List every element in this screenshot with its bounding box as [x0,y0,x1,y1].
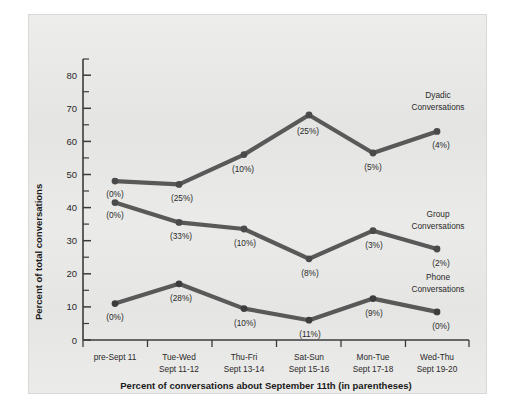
annotation-group-0: (0%) [106,210,124,220]
series-group-markers [112,199,441,262]
x-cat-4-line2: Sept 17-18 [353,364,394,374]
y-tick-label-30: 30 [66,235,77,246]
annotation-phone-5: (0%) [432,321,450,331]
annotation-phone-2: (10%) [234,318,256,328]
series-phone: (0%) (28%) (10%) (11%) (9%) (0%) Phone C… [106,272,464,339]
y-tick-label-60: 60 [66,136,77,147]
series-group-line [115,203,437,259]
line-chart: Percent of total conversations 0 10 20 3… [29,15,486,393]
x-cat-4-line1: Mon-Tue [357,352,390,362]
series-label-dyadic-line2: Conversations [411,102,464,112]
series-label-group-line1: Group [426,209,449,219]
annotation-group-2: (10%) [234,238,256,248]
y-tick-label-20: 20 [66,268,77,279]
series-label-phone-line1: Phone [426,272,450,282]
y-tick-label-50: 50 [66,169,77,180]
x-axis-category-labels: pre-Sept 11 Tue-Wed Sept 11-12 Thu-Fri S… [94,352,458,374]
y-tick-label-80: 80 [66,70,77,81]
y-axis-title: Percent of total conversations [33,184,44,320]
series-dyadic-markers [112,112,441,188]
y-tick-label-0: 0 [72,335,77,346]
x-cat-5-line1: Wed-Thu [420,352,454,362]
annotation-group-5: (2%) [432,258,450,268]
annotation-group-4: (3%) [365,240,383,250]
annotation-group-3: (8%) [301,268,319,278]
x-cat-2-line2: Sept 13-14 [224,364,265,374]
x-cat-2-line1: Thu-Fri [231,352,258,362]
series-label-phone-line2: Conversations [411,284,464,294]
x-cat-1-line2: Sept 11-12 [159,364,199,374]
annotation-dyadic-3: (25%) [297,126,319,136]
annotation-dyadic-5: (4%) [432,140,450,150]
annotation-phone-3: (11%) [299,329,321,339]
annotation-phone-1: (28%) [170,293,192,303]
annotation-dyadic-2: (10%) [232,164,254,174]
x-cat-0-line1: pre-Sept 11 [94,352,137,362]
annotation-group-1: (33%) [170,231,192,241]
series-phone-line [115,284,437,320]
y-axis-minor-ticks [83,59,89,324]
series-group: (0%) (33%) (10%) (8%) (3%) (2%) Group Co… [106,199,464,278]
x-cat-3-line2: Sept 15-16 [289,364,330,374]
annotation-dyadic-1: (25%) [171,193,193,203]
y-tick-label-70: 70 [66,103,77,114]
annotation-phone-0: (0%) [106,312,124,322]
series-dyadic-line [115,115,437,184]
x-cat-3-line1: Sat-Sun [294,352,324,362]
annotation-dyadic-4: (5%) [364,162,382,172]
chart-figure: Percent of total conversations 0 10 20 3… [28,14,487,394]
series-label-dyadic-line1: Dyadic [425,90,450,100]
x-cat-1-line1: Tue-Wed [162,352,196,362]
annotation-dyadic-0: (0%) [106,189,124,199]
series-dyadic: (0%) (25%) (10%) (25%) (5%) (4%) Dyadic … [106,90,464,203]
x-axis-ticks [83,340,469,347]
annotation-phone-4: (9%) [365,308,383,318]
y-tick-label-40: 40 [66,202,77,213]
series-label-group-line2: Conversations [411,221,464,231]
x-axis-title: Percent of conversations about September… [120,380,411,391]
y-tick-label-10: 10 [66,301,77,312]
y-axis-ticks: 0 10 20 30 40 50 60 70 80 [66,70,91,346]
x-cat-5-line2: Sept 19-20 [417,364,458,374]
